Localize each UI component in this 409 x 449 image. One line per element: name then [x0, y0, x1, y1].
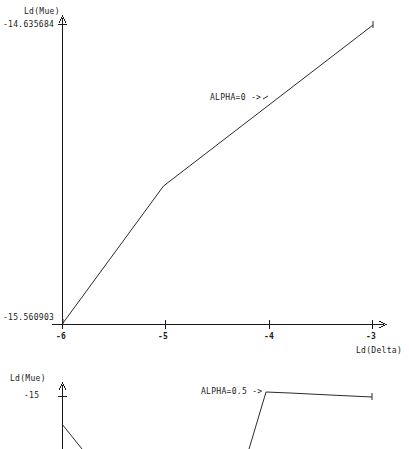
upper-annotation-alpha-0: ALPHA=0 ->	[210, 94, 261, 102]
upper-y-tick-label-max: -14.635684	[3, 21, 54, 29]
upper-x-axis-label: Ld(Delta)	[356, 347, 402, 355]
upper-x-tick-label-1: -5	[158, 333, 168, 341]
upper-y-axis-label: Ld(Mue)	[24, 8, 60, 16]
lower-annotation-alpha-05: ALPHA=0.5 ->	[201, 388, 262, 396]
upper-y-tick-label-min: -15.560903	[3, 314, 54, 322]
plot-figure: Ld(Mue) -14.635684 -15.560903 -6 -5 -4 -…	[0, 0, 409, 449]
lower-data-fragment-left	[62, 424, 82, 449]
upper-x-tick-label-0: -6	[56, 333, 66, 341]
plot-canvas	[0, 0, 409, 449]
upper-annotation-pointer	[263, 96, 268, 99]
upper-x-tick-label-3: -3	[366, 333, 376, 341]
lower-y-tick-label: -15	[24, 392, 39, 400]
upper-x-tick-label-2: -4	[264, 333, 274, 341]
lower-data-curve-alpha-05	[249, 392, 372, 449]
lower-y-axis-label: Ld(Mue)	[10, 375, 46, 383]
upper-data-curve-alpha-0	[63, 25, 373, 323]
